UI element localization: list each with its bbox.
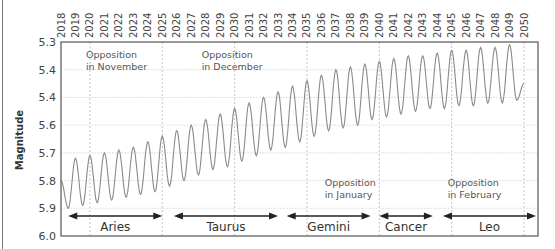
y-axis-ticks: 5.35.45.45.65.75.85.96.0 bbox=[39, 36, 57, 243]
y-tick-label: 5.7 bbox=[39, 147, 57, 160]
x-tick-label: 2043 bbox=[417, 13, 428, 38]
x-tick-label: 2050 bbox=[519, 13, 530, 38]
arrow-right-icon bbox=[153, 213, 162, 220]
x-tick-label: 2018 bbox=[56, 13, 67, 38]
arrow-right-icon bbox=[362, 213, 371, 220]
x-tick-label: 2038 bbox=[345, 13, 356, 38]
x-tick-label: 2044 bbox=[432, 13, 443, 38]
constellation-arrows: AriesTaurusGeminiCancerLeo bbox=[68, 213, 536, 235]
constellation-label: Taurus bbox=[205, 220, 245, 234]
svg-text:Opposition: Opposition bbox=[448, 177, 499, 188]
y-tick-label: 5.8 bbox=[39, 175, 57, 188]
arrow-left-icon bbox=[287, 213, 296, 220]
arrow-right-icon bbox=[424, 213, 433, 220]
svg-text:in January: in January bbox=[325, 189, 373, 200]
y-tick-label: 5.4 bbox=[39, 64, 57, 77]
x-tick-label: 2033 bbox=[273, 13, 284, 38]
y-tick-label: 5.6 bbox=[39, 119, 57, 132]
constellation-label: Leo bbox=[479, 220, 500, 234]
x-tick-label: 2022 bbox=[113, 13, 124, 38]
arrow-left-icon bbox=[174, 213, 183, 220]
svg-text:Opposition: Opposition bbox=[86, 49, 137, 60]
arrow-right-icon bbox=[269, 213, 278, 220]
opposition-annotation: Oppositionin January bbox=[325, 177, 376, 200]
x-tick-label: 2025 bbox=[157, 13, 168, 38]
opposition-annotations: Oppositionin NovemberOppositionin Decemb… bbox=[86, 49, 502, 199]
svg-text:in February: in February bbox=[448, 189, 502, 200]
opposition-annotation: Oppositionin November bbox=[86, 49, 147, 72]
y-tick-label: 6.0 bbox=[39, 230, 57, 243]
constellation-taurus: Taurus bbox=[174, 213, 278, 235]
x-tick-label: 2028 bbox=[200, 13, 211, 38]
arrow-left-icon bbox=[379, 213, 388, 220]
constellation-leo: Leo bbox=[443, 213, 536, 235]
x-tick-label: 2032 bbox=[258, 13, 269, 38]
x-tick-label: 2021 bbox=[99, 13, 110, 38]
constellation-label: Gemini bbox=[307, 220, 350, 234]
x-tick-label: 2045 bbox=[446, 13, 457, 38]
x-tick-label: 2024 bbox=[142, 13, 153, 38]
svg-text:in December: in December bbox=[202, 61, 263, 72]
opposition-annotation: Oppositionin February bbox=[448, 177, 502, 200]
x-tick-label: 2035 bbox=[301, 13, 312, 38]
y-axis-title: Magnitude bbox=[14, 110, 25, 170]
x-tick-label: 2042 bbox=[403, 13, 414, 38]
y-tick-label: 5.3 bbox=[39, 36, 57, 49]
x-tick-label: 2029 bbox=[215, 13, 226, 38]
svg-text:Opposition: Opposition bbox=[325, 177, 376, 188]
constellation-cancer: Cancer bbox=[379, 213, 433, 235]
x-axis-year-labels: 2018201920202021202220232024202520262027… bbox=[56, 13, 530, 38]
x-tick-label: 2019 bbox=[70, 13, 81, 38]
x-tick-label: 2037 bbox=[330, 13, 341, 38]
x-tick-label: 2034 bbox=[287, 13, 298, 38]
constellation-aries: Aries bbox=[68, 213, 162, 235]
x-tick-label: 2039 bbox=[359, 13, 370, 38]
x-tick-label: 2023 bbox=[128, 13, 139, 38]
y-tick-label: 5.4 bbox=[39, 91, 57, 104]
dashed-year-lines bbox=[90, 42, 524, 236]
x-tick-label: 2026 bbox=[171, 13, 182, 38]
x-tick-label: 2031 bbox=[244, 13, 255, 38]
svg-text:in November: in November bbox=[86, 61, 147, 72]
constellation-gemini: Gemini bbox=[287, 213, 371, 235]
arrow-left-icon bbox=[68, 213, 77, 220]
x-tick-label: 2041 bbox=[388, 13, 399, 38]
arrow-right-icon bbox=[527, 213, 536, 220]
x-tick-label: 2027 bbox=[186, 13, 197, 38]
x-tick-label: 2046 bbox=[461, 13, 472, 38]
x-tick-label: 2049 bbox=[504, 13, 515, 38]
constellation-label: Aries bbox=[100, 220, 130, 234]
opposition-annotation: Oppositionin December bbox=[202, 49, 263, 72]
x-tick-label: 2036 bbox=[316, 13, 327, 38]
arrow-left-icon bbox=[443, 213, 452, 220]
constellation-label: Cancer bbox=[385, 220, 427, 234]
magnitude-chart: 5.35.45.45.65.75.85.96.0 201820192020202… bbox=[0, 0, 555, 249]
x-tick-label: 2047 bbox=[475, 13, 486, 38]
x-tick-label: 2040 bbox=[374, 13, 385, 38]
x-tick-label: 2020 bbox=[84, 13, 95, 38]
x-tick-label: 2048 bbox=[490, 13, 501, 38]
y-tick-label: 5.9 bbox=[39, 202, 57, 215]
svg-text:Opposition: Opposition bbox=[202, 49, 253, 60]
x-tick-label: 2030 bbox=[229, 13, 240, 38]
